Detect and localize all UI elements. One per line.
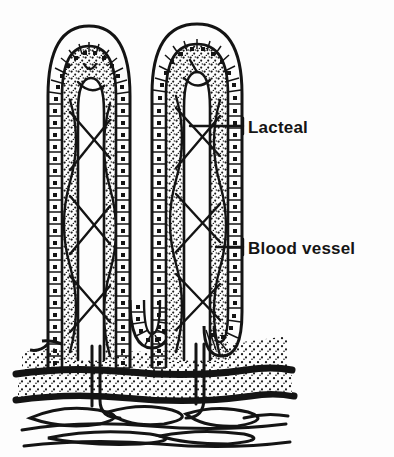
blood-vessel-label: Blood vessel bbox=[248, 239, 355, 258]
lacteal-label: Lacteal bbox=[248, 118, 308, 137]
villus-right bbox=[152, 24, 242, 368]
villi-diagram: Lacteal Blood vessel bbox=[0, 0, 394, 457]
villus-left bbox=[48, 26, 130, 368]
